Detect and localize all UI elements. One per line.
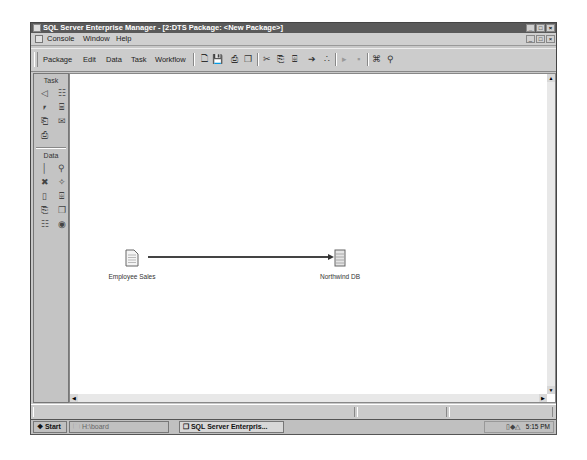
minimize-button[interactable]: _ xyxy=(526,24,535,32)
console-icon[interactable] xyxy=(35,35,43,43)
menu-package[interactable]: Package xyxy=(43,55,72,64)
data-header: Data xyxy=(34,152,68,159)
zoom-icon[interactable]: ⚲ xyxy=(385,53,396,65)
run-icon[interactable]: ▸ xyxy=(339,53,350,65)
data-driven-query-task-icon[interactable]: ⌸ xyxy=(55,101,68,113)
package-toolbar: Package Edit Data Task Workflow 🗋 💾 ⎙ ❐ … xyxy=(31,48,556,72)
paradox-connection-icon[interactable]: ⌹ xyxy=(55,190,68,202)
new-icon[interactable]: 🗋 xyxy=(199,53,210,65)
layout-icon[interactable]: ⌘ xyxy=(371,53,382,65)
menu-edit[interactable]: Edit xyxy=(83,55,96,64)
windows-taskbar: ❖ Start 🗀 H:\board ❐ SQL Server Enterpri… xyxy=(30,419,557,435)
scroll-up-arrow[interactable]: ▲ xyxy=(547,74,555,82)
enterprise-manager-window: SQL Server Enterprise Manager - [2:DTS P… xyxy=(30,22,557,435)
connection-task-palette: Task ◁ ☷ ⎖ ⌸ ⎗ ✉ ⎙ Data │ ⚲ ✖ ✧ ▯ ⌹ ⎘ ❐ … xyxy=(33,73,69,403)
windows-logo-icon: ❖ xyxy=(37,423,43,430)
palette-divider xyxy=(36,147,66,149)
mdi-close-button[interactable]: × xyxy=(546,35,555,43)
text-file-destination-icon[interactable]: ❐ xyxy=(55,204,68,216)
toolbar-separator xyxy=(193,53,195,66)
bulk-insert-task-icon[interactable]: ⎗ xyxy=(38,115,51,127)
menu-window[interactable]: Window xyxy=(83,34,110,44)
maximize-button[interactable]: □ xyxy=(536,24,545,32)
system-tray: ▯◆△ 5:15 PM xyxy=(484,421,554,433)
tray-icons[interactable]: ▯◆△ xyxy=(506,423,520,430)
menu-task[interactable]: Task xyxy=(131,55,146,64)
transform-data-arrow[interactable] xyxy=(70,74,550,394)
excel-connection-icon[interactable]: ✖ xyxy=(38,176,51,188)
mdi-restore-button[interactable]: □ xyxy=(536,35,545,43)
properties-icon[interactable]: ❐ xyxy=(242,53,253,65)
package-design-canvas[interactable]: Employee Sales Northwind DB ▲ ▼ ◀ ▶ xyxy=(69,73,556,403)
active-x-script-task-icon[interactable]: ◁ xyxy=(38,87,51,99)
taskbar-button-label: H:\board xyxy=(82,423,109,430)
send-mail-task-icon[interactable]: ✉ xyxy=(55,115,68,127)
menu-console[interactable]: Console xyxy=(47,34,75,44)
copy-icon[interactable]: ⎘ xyxy=(275,53,286,65)
node-label: Northwind DB xyxy=(310,273,370,280)
title-bar[interactable]: SQL Server Enterprise Manager - [2:DTS P… xyxy=(31,23,556,33)
connect-icon[interactable]: ➔ xyxy=(306,53,317,65)
taskbar-button-label: SQL Server Enterpris... xyxy=(191,423,268,430)
menu-data[interactable]: Data xyxy=(106,55,122,64)
taskbar-button-enterprise-manager[interactable]: ❐ SQL Server Enterpris... xyxy=(179,421,284,433)
status-pane xyxy=(33,407,355,417)
text-file-source-icon[interactable]: ⎘ xyxy=(38,204,51,216)
other-connection-icon[interactable]: ◉ xyxy=(55,218,68,230)
stop-icon[interactable]: ▪ xyxy=(353,53,364,65)
task-header: Task xyxy=(34,77,68,84)
save-icon[interactable]: 💾 xyxy=(212,53,223,65)
toolbar-separator xyxy=(257,53,259,66)
status-pane xyxy=(449,407,553,417)
clock: 5:15 PM xyxy=(526,423,550,430)
scroll-left-arrow[interactable]: ◀ xyxy=(70,394,78,402)
northwind-db-node[interactable]: Northwind DB xyxy=(310,249,370,280)
menu-bar: Console Window Help _ □ × xyxy=(31,33,556,46)
status-pane xyxy=(357,407,447,417)
start-label: Start xyxy=(45,423,61,430)
taskbar-button-board[interactable]: 🗀 H:\board xyxy=(69,421,169,433)
employee-sales-node[interactable]: Employee Sales xyxy=(102,249,162,280)
scroll-right-arrow[interactable]: ▶ xyxy=(539,394,547,402)
app-icon xyxy=(33,24,41,32)
toolbar-separator xyxy=(335,53,337,66)
execute-process-task-icon[interactable]: ⎙ xyxy=(38,129,51,141)
toolbar-grip[interactable] xyxy=(34,52,38,67)
database-server-icon xyxy=(334,249,346,267)
folder-icon: 🗀 xyxy=(73,423,80,430)
scroll-down-arrow[interactable]: ▼ xyxy=(547,386,555,394)
access-connection-icon[interactable]: ⚲ xyxy=(55,162,68,174)
horizontal-scrollbar[interactable]: ◀ ▶ xyxy=(70,394,547,402)
transform-icon[interactable]: ∴ xyxy=(321,53,332,65)
transfer-objects-task-icon[interactable]: ☷ xyxy=(55,87,68,99)
menu-workflow[interactable]: Workflow xyxy=(155,55,186,64)
toolbar-separator xyxy=(367,53,369,66)
sql-server-connection-icon[interactable]: │ xyxy=(38,162,51,174)
cut-icon[interactable]: ✂ xyxy=(261,53,272,65)
execute-sql-task-icon[interactable]: ⎖ xyxy=(38,101,51,113)
odbc-connection-icon[interactable]: ☷ xyxy=(38,218,51,230)
window-title: SQL Server Enterprise Manager - [2:DTS P… xyxy=(43,23,283,32)
enterprise-manager-icon: ❐ xyxy=(183,423,189,430)
dbase-connection-icon[interactable]: ▯ xyxy=(38,190,51,202)
print-icon[interactable]: ⎙ xyxy=(229,53,240,65)
mdi-minimize-button[interactable]: _ xyxy=(526,35,535,43)
vertical-scrollbar[interactable]: ▲ ▼ xyxy=(547,74,555,394)
text-file-icon xyxy=(125,249,139,267)
node-label: Employee Sales xyxy=(102,273,162,280)
menu-help[interactable]: Help xyxy=(116,34,131,44)
start-button[interactable]: ❖ Start xyxy=(33,421,67,433)
status-bar xyxy=(31,404,556,419)
paste-icon[interactable]: ⌹ xyxy=(289,53,300,65)
oracle-connection-icon[interactable]: ✧ xyxy=(55,176,68,188)
close-button[interactable]: × xyxy=(546,24,555,32)
